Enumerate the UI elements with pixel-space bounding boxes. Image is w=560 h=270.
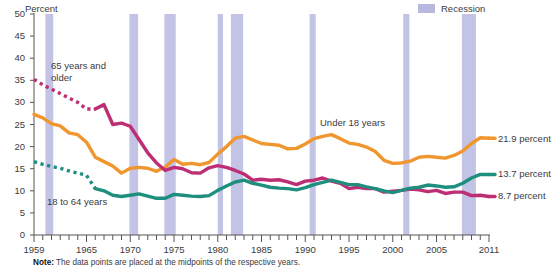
series-line-solid xyxy=(95,105,489,197)
recession-band xyxy=(403,14,409,235)
recession-band xyxy=(129,14,138,235)
y-axis-tick-label: 25 xyxy=(5,119,25,130)
series-label-under-18: Under 18 years xyxy=(320,117,385,128)
y-axis-tick-label: 15 xyxy=(5,163,25,174)
series-line-solid xyxy=(34,114,489,173)
recession-band xyxy=(310,14,316,235)
y-axis-tick-label: 40 xyxy=(5,52,25,63)
chart-note-text: The data points are placed at the midpoi… xyxy=(56,258,300,267)
x-axis-tick-label: 1970 xyxy=(110,244,150,255)
x-axis-tick-label: 2011 xyxy=(469,244,509,255)
x-axis-tick-label: 1975 xyxy=(154,244,194,255)
y-axis-tick-label: 35 xyxy=(5,74,25,85)
x-axis-tick-label: 2005 xyxy=(417,244,457,255)
x-axis-tick-label: 1959 xyxy=(14,244,54,255)
series-label-65-and-older-line2: older xyxy=(51,72,72,83)
recession-legend-swatch xyxy=(418,4,435,13)
x-axis-tick-label: 1990 xyxy=(285,244,325,255)
recession-band xyxy=(462,14,476,235)
x-axis-tick-label: 1985 xyxy=(242,244,282,255)
y-axis-ticks xyxy=(30,14,34,235)
y-axis-tick-label: 5 xyxy=(5,207,25,218)
series-line-dotted xyxy=(34,162,95,189)
y-axis-tick-label: 50 xyxy=(5,8,25,19)
end-label-65-and-older: 8.7 percent xyxy=(498,190,546,201)
y-axis-tick-label: 30 xyxy=(5,96,25,107)
y-axis-tick-label: 10 xyxy=(5,185,25,196)
chart-note-prefix: Note: xyxy=(33,258,54,267)
x-axis-tick-label: 1995 xyxy=(329,244,369,255)
series-line-dotted xyxy=(34,79,95,109)
chart-note: Note: The data points are placed at the … xyxy=(33,258,300,267)
chart-container: Percent 05101520253035404550 19591965197… xyxy=(0,0,560,270)
recession-legend-label: Recession xyxy=(441,3,485,14)
y-axis-tick-label: 0 xyxy=(5,229,25,240)
recession-band xyxy=(164,14,175,235)
series-label-65-and-older-line1: 65 years and xyxy=(51,60,106,71)
y-axis-title: Percent xyxy=(25,3,58,14)
series-line-solid xyxy=(95,174,489,198)
chart-plot-area xyxy=(0,0,560,270)
x-axis-tick-label: 2000 xyxy=(373,244,413,255)
y-axis-tick-label: 45 xyxy=(5,30,25,41)
x-axis-tick-label: 1980 xyxy=(198,244,238,255)
y-axis-tick-label: 20 xyxy=(5,141,25,152)
series-lines xyxy=(34,79,495,198)
end-label-under-18: 21.9 percent xyxy=(498,133,551,144)
x-axis-tick-label: 1965 xyxy=(67,244,107,255)
recession-bands xyxy=(45,14,476,235)
recession-band xyxy=(218,14,223,235)
recession-band xyxy=(231,14,243,235)
end-label-18-to-64: 13.7 percent xyxy=(498,168,551,179)
series-label-18-to-64: 18 to 64 years xyxy=(47,196,107,207)
x-axis-ticks xyxy=(34,235,489,242)
